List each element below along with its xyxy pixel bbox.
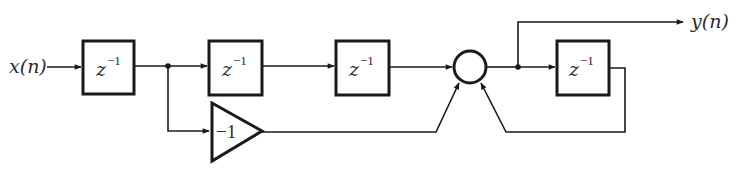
delay-2-label: z xyxy=(221,58,233,80)
feedback-line xyxy=(481,68,625,132)
delay-3-label: z xyxy=(348,58,360,80)
gain-block: −1 xyxy=(212,103,262,161)
delay-block-4: z −1 xyxy=(557,41,609,95)
output-label: y(n) xyxy=(690,10,729,32)
delay-4-exponent: −1 xyxy=(580,53,594,68)
delay-block-3: z −1 xyxy=(336,41,389,95)
delay-1-exponent: −1 xyxy=(107,53,121,68)
gain-label: −1 xyxy=(216,121,236,142)
summing-junction xyxy=(454,51,486,83)
delay-2-exponent: −1 xyxy=(233,53,247,68)
output-arrow xyxy=(518,22,683,67)
delay-3-exponent: −1 xyxy=(360,53,374,68)
delay-block-1: z −1 xyxy=(83,41,134,94)
delay-1-label: z xyxy=(95,58,107,80)
block-diagram: x(n) z −1 z −1 z −1 −1 y(n) z xyxy=(0,0,741,174)
line-gain-to-adder xyxy=(262,83,459,132)
delay-4-label: z xyxy=(568,58,580,80)
input-label: x(n) xyxy=(9,55,47,77)
line-junction-to-gain xyxy=(168,66,209,131)
delay-block-2: z −1 xyxy=(209,41,262,95)
